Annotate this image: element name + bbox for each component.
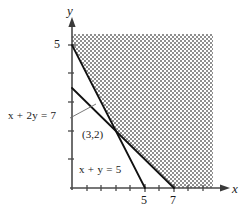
graph-figure: y x 5 5 7 x + 2y = 7 x + y = 5 (3,2): [0, 0, 245, 216]
equation-label-x-plus-y-5: x + y = 5: [79, 164, 122, 175]
label-leader-line: [70, 104, 96, 118]
equation-label-x-plus-2y-7: x + 2y = 7: [8, 110, 56, 121]
vertex-point-label: (3,2): [82, 129, 103, 140]
y-axis-label: y: [67, 4, 73, 17]
x-tick-label-5: 5: [141, 194, 147, 206]
x-axis-label: x: [232, 182, 238, 195]
y-tick-label-5: 5: [54, 38, 60, 50]
x-tick-label-7: 7: [170, 194, 176, 206]
plot-canvas: [0, 0, 245, 216]
